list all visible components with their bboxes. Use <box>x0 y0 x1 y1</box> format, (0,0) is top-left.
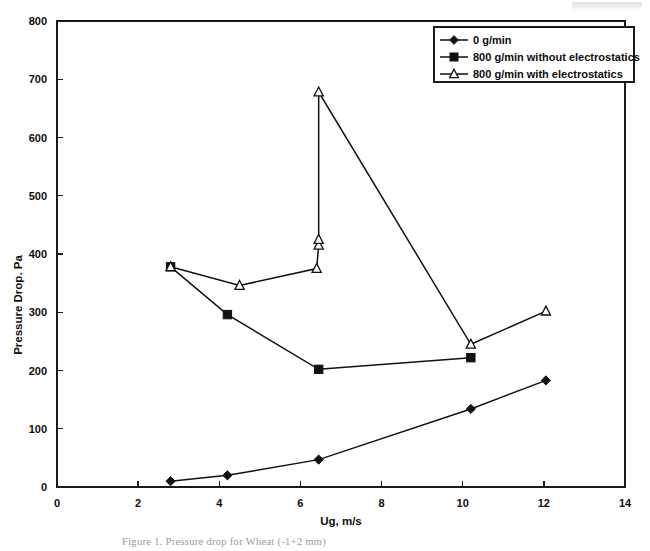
legend-label: 0 g/min <box>473 34 512 46</box>
data-point-marker <box>466 404 475 413</box>
chart-legend: 0 g/min800 g/min without electrostatics8… <box>434 27 640 82</box>
data-point-marker <box>541 306 550 315</box>
legend-label: 800 g/min with electrostatics <box>473 68 623 80</box>
x-axis-tick-labels: 02468101214 <box>54 497 632 509</box>
series-3 <box>166 87 550 348</box>
figure-caption: Figure 1. Pressure drop for Wheat (-1+2 … <box>122 536 326 547</box>
y-axis-ticks <box>57 21 63 487</box>
y-axis-tick-labels: 0100200300400500600700800 <box>29 15 47 493</box>
data-point-marker <box>466 339 475 348</box>
series-polyline <box>171 267 471 370</box>
y-tick-label: 300 <box>29 306 47 318</box>
x-tick-label: 10 <box>457 497 469 509</box>
y-tick-label: 0 <box>41 481 47 493</box>
data-point-marker <box>314 455 323 464</box>
y-tick-label: 400 <box>29 248 47 260</box>
y-tick-label: 800 <box>29 15 47 27</box>
x-tick-label: 14 <box>619 497 632 509</box>
y-tick-label: 500 <box>29 190 47 202</box>
data-series-layer <box>166 87 550 486</box>
y-tick-label: 700 <box>29 73 47 85</box>
series-polyline <box>171 380 546 481</box>
series-polyline <box>171 92 546 344</box>
data-point-marker <box>166 477 175 486</box>
series-2 <box>166 263 475 374</box>
data-point-marker <box>314 365 322 373</box>
data-point-marker <box>223 310 231 318</box>
x-tick-label: 4 <box>216 497 223 509</box>
x-tick-label: 2 <box>135 497 141 509</box>
data-point-marker <box>312 264 321 273</box>
figure-container: 02468101214 0100200300400500600700800 Pr… <box>0 0 650 551</box>
data-point-marker <box>314 87 323 96</box>
series-1 <box>166 376 550 486</box>
x-tick-label: 6 <box>297 497 303 509</box>
plot-frame <box>57 21 625 487</box>
y-axis-title: Pressure Drop. Pa <box>12 255 24 355</box>
y-tick-label: 100 <box>29 423 47 435</box>
legend-label: 800 g/min without electrostatics <box>473 51 640 63</box>
x-tick-label: 8 <box>379 497 385 509</box>
x-axis-title: Ug, m/s <box>320 515 362 527</box>
x-tick-label: 0 <box>54 497 60 509</box>
y-tick-label: 600 <box>29 132 47 144</box>
data-point-marker <box>314 234 323 243</box>
x-axis-ticks <box>57 481 625 487</box>
data-point-marker <box>223 471 232 480</box>
data-point-marker <box>450 53 458 61</box>
data-point-marker <box>467 353 475 361</box>
data-point-marker <box>541 376 550 385</box>
y-tick-label: 200 <box>29 365 47 377</box>
pressure-drop-chart: 02468101214 0100200300400500600700800 Pr… <box>0 0 650 551</box>
x-tick-label: 12 <box>538 497 550 509</box>
